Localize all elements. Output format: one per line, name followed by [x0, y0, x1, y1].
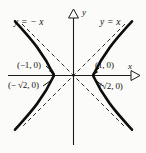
hyperbola-figure: y = − x y = x y x (−1, 0) (− √2, 0) (1, …	[0, 0, 146, 153]
y-axis-arrowhead-icon	[69, 9, 79, 18]
asymptote-label-negative-slope: y = − x	[14, 18, 44, 28]
focus-right-label: (√2, 0)	[99, 82, 123, 91]
y-axis-label: y	[82, 8, 86, 17]
x-axis-arrowhead-icon	[131, 71, 140, 81]
vertex-right-label: (1, 0)	[95, 61, 114, 70]
x-axis-label: x	[128, 62, 132, 71]
focus-left-label: (− √2, 0)	[8, 81, 39, 90]
y-axis	[69, 9, 79, 145]
vertex-left-label: (−1, 0)	[17, 61, 41, 70]
asymptote-label-positive-slope: y = x	[100, 18, 121, 28]
